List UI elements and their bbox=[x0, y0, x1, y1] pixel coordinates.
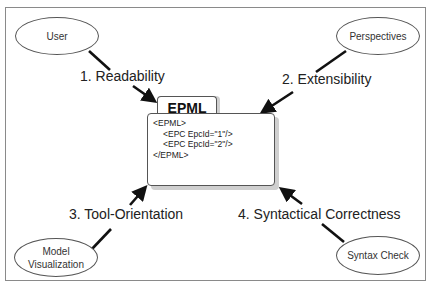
node-user-label: User bbox=[46, 30, 67, 43]
edge-extensibility-line-upper bbox=[316, 51, 346, 72]
edge-tool-orientation-arrow bbox=[130, 189, 144, 205]
edge-syntactical-arrow bbox=[283, 190, 302, 204]
code-line: </EPML> bbox=[153, 150, 274, 161]
node-model-visualization: Model Visualization bbox=[14, 238, 98, 277]
node-model-visualization-label-2: Visualization bbox=[28, 258, 84, 271]
edge-tool-orientation-line-lower bbox=[91, 229, 111, 250]
epml-document: <EPML> <EPC EpcId="1"/> <EPC EpcId="2"/>… bbox=[147, 113, 275, 186]
node-perspectives-label: Perspectives bbox=[349, 30, 406, 43]
edge-label-readability: 1. Readability bbox=[80, 68, 165, 84]
edge-extensibility-arrow bbox=[264, 92, 293, 111]
node-syntax-check: Syntax Check bbox=[336, 236, 420, 275]
node-perspectives: Perspectives bbox=[336, 17, 420, 55]
edge-syntactical-line-lower bbox=[322, 224, 344, 242]
edge-label-syntactical-correctness: 4. Syntactical Correctness bbox=[238, 206, 401, 222]
edge-label-tool-orientation: 3. Tool-Orientation bbox=[69, 206, 183, 222]
node-syntax-check-label: Syntax Check bbox=[347, 249, 409, 262]
code-line: <EPML> bbox=[153, 118, 274, 129]
node-model-visualization-label-1: Model bbox=[42, 245, 69, 258]
edge-readability-arrow bbox=[133, 86, 153, 100]
edge-label-extensibility: 2. Extensibility bbox=[282, 71, 371, 87]
code-line: <EPC EpcId="1"/> bbox=[153, 129, 274, 140]
node-user: User bbox=[15, 17, 99, 55]
code-line: <EPC EpcId="2"/> bbox=[153, 139, 274, 150]
